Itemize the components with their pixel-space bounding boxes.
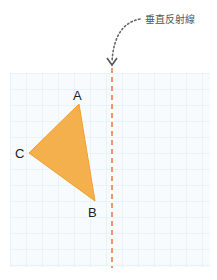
- grid-background: [10, 73, 210, 267]
- reflection-line-caption: 垂直反射線: [145, 13, 195, 25]
- vertex-label-a: A: [73, 88, 82, 103]
- vertex-label-b: B: [88, 205, 97, 220]
- annotation-arrow-icon: [112, 19, 140, 62]
- reflection-diagram: A B C 垂直反射線: [0, 0, 217, 280]
- vertex-label-c: C: [15, 146, 24, 161]
